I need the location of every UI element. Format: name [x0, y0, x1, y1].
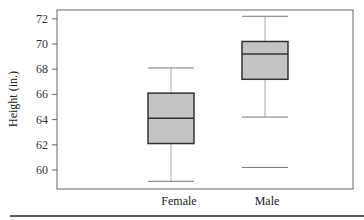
- y-tick-label: 72: [36, 12, 48, 26]
- y-tick-label: 64: [36, 113, 48, 127]
- box-plot: 60626466687072 Height (in.) Female Male: [0, 0, 364, 220]
- y-tick-label: 70: [36, 37, 48, 51]
- y-tick-label: 66: [36, 87, 48, 101]
- boxes: [148, 16, 288, 181]
- y-tick-label: 62: [36, 138, 48, 152]
- x-label-male: Male: [255, 194, 280, 208]
- plot-frame: [57, 10, 353, 189]
- y-tick-label: 68: [36, 62, 48, 76]
- y-axis: 60626466687072: [36, 12, 57, 177]
- box-male: [242, 16, 288, 167]
- x-label-female: Female: [161, 194, 196, 208]
- y-axis-label: Height (in.): [6, 71, 20, 127]
- y-tick-label: 60: [36, 163, 48, 177]
- box-female: [148, 68, 194, 181]
